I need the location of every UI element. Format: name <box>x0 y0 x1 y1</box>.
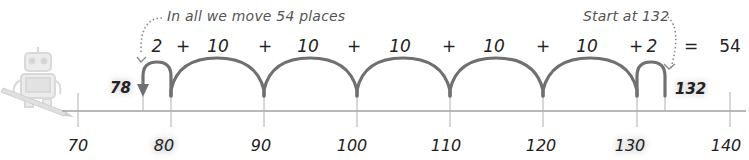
jump-label: 10 <box>483 38 505 55</box>
tick-label-130: 130 <box>615 138 646 154</box>
plus-sign: + <box>629 38 643 55</box>
tick-label-70: 70 <box>68 138 88 154</box>
tick-label-110: 110 <box>431 138 462 154</box>
total-distance-note: In all we move 54 places <box>167 9 345 23</box>
jump-label: 2 <box>647 38 658 55</box>
jump-label: 2 <box>152 38 163 55</box>
end-value-label: 78 <box>110 81 131 96</box>
number-line-diagram: In all we move 54 places Start at 132 2 … <box>0 0 749 160</box>
jump-label: 10 <box>297 38 319 55</box>
plus-sign: + <box>258 38 272 55</box>
tick-label-90: 90 <box>251 138 271 154</box>
jump-arcs <box>143 58 665 96</box>
start-note: Start at 132 <box>583 9 669 23</box>
tick-label-140: 140 <box>711 138 742 154</box>
plus-sign: + <box>347 38 361 55</box>
tick-label-100: 100 <box>337 138 368 154</box>
total-result: 54 <box>719 38 741 55</box>
tick-label-80: 80 <box>154 138 174 154</box>
equals-sign: = <box>684 38 698 55</box>
jump-label: 10 <box>576 38 598 55</box>
plus-sign: + <box>442 38 456 55</box>
jump-label: 10 <box>389 38 411 55</box>
start-value-label: 132 <box>675 82 706 97</box>
plus-sign: + <box>536 38 550 55</box>
tick-label-120: 120 <box>526 138 557 154</box>
arrowhead-icon <box>137 84 149 97</box>
jump-label: 10 <box>207 38 229 55</box>
plus-sign: + <box>176 38 190 55</box>
tick-marks <box>78 92 730 127</box>
